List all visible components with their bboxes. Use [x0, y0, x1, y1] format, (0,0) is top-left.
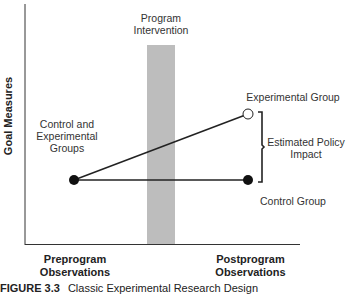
combined-groups-line3: Groups [22, 142, 112, 154]
experimental-post-point [243, 109, 253, 119]
postprogram-line1: Postprogram [203, 253, 298, 266]
combined-groups-line1: Control and [22, 118, 112, 130]
experimental-group-label: Experimental Group [238, 91, 346, 103]
caption-title: Classic Experimental Research Design [68, 282, 258, 294]
combined-groups-line2: Experimental [22, 130, 112, 142]
impact-label-line1: Estimated Policy [264, 136, 346, 148]
postprogram-label: Postprogram Observations [203, 253, 298, 278]
control-post-point [243, 175, 253, 185]
preprogram-line2: Observations [30, 266, 120, 279]
caption-number: FIGURE 3.3 [0, 282, 60, 294]
y-axis-label: Goal Measures [2, 66, 14, 166]
control-group-label: Control Group [248, 195, 338, 207]
preprogram-line1: Preprogram [30, 253, 120, 266]
preprogram-label: Preprogram Observations [30, 253, 120, 278]
impact-label-line2: Impact [264, 148, 346, 160]
pre-observation-point [69, 175, 79, 185]
intervention-label-line2: Intervention [125, 24, 197, 36]
intervention-label: Program Intervention [125, 12, 197, 36]
postprogram-line2: Observations [203, 266, 298, 279]
impact-label: Estimated Policy Impact [264, 136, 346, 160]
intervention-bar [147, 45, 175, 244]
intervention-label-line1: Program [125, 12, 197, 24]
combined-groups-label: Control and Experimental Groups [22, 118, 112, 154]
figure-caption: FIGURE 3.3Classic Experimental Research … [0, 282, 258, 294]
